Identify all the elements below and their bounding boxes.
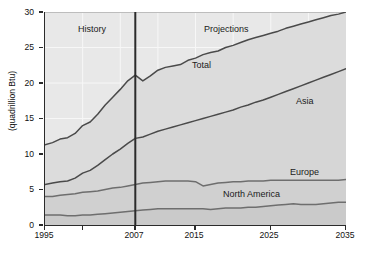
- y-tick-mark-10: [39, 153, 43, 154]
- x-tick-label-2007: 2007: [114, 231, 154, 240]
- x-tick-label-2035: 2035: [325, 231, 365, 240]
- y-tick-mark-5: [39, 189, 43, 190]
- x-tick-label-2015: 2015: [174, 231, 214, 240]
- y-tick-mark-20: [39, 82, 43, 83]
- y-tick-mark-25: [39, 47, 43, 48]
- annotation-projections: Projections: [204, 25, 249, 34]
- series-label-north-america: North America: [223, 190, 280, 199]
- y-tick-label-30: 30: [10, 8, 34, 17]
- x-tick-mark-1995: [44, 226, 45, 230]
- x-tick-mark-2015: [194, 226, 195, 230]
- y-tick-mark-15: [39, 118, 43, 119]
- annotation-history: History: [78, 25, 106, 34]
- x-tick-mark-2025: [270, 226, 271, 230]
- chart-canvas: [45, 12, 346, 225]
- plot-area: History Projections Total Asia Europe No…: [44, 12, 346, 226]
- y-tick-mark-30: [39, 11, 43, 12]
- chart-figure: (quadrillion Btu) 30 25 20 15 10 5 0 199…: [0, 0, 369, 253]
- x-tick-label-2025: 2025: [249, 231, 289, 240]
- x-tick-mark-2035: [345, 226, 346, 230]
- x-tick-mark-2007: [134, 226, 135, 230]
- y-tick-label-0: 0: [10, 221, 34, 230]
- x-tick-label-1995: 1995: [24, 231, 64, 240]
- y-tick-mark-0: [39, 224, 43, 225]
- series-label-total: Total: [192, 61, 211, 70]
- series-label-europe: Europe: [290, 168, 319, 177]
- series-label-asia: Asia: [296, 97, 314, 106]
- x-tick-mark-2000: [82, 226, 83, 230]
- y-axis-title: (quadrillion Btu): [7, 41, 17, 161]
- y-tick-label-5: 5: [10, 185, 34, 194]
